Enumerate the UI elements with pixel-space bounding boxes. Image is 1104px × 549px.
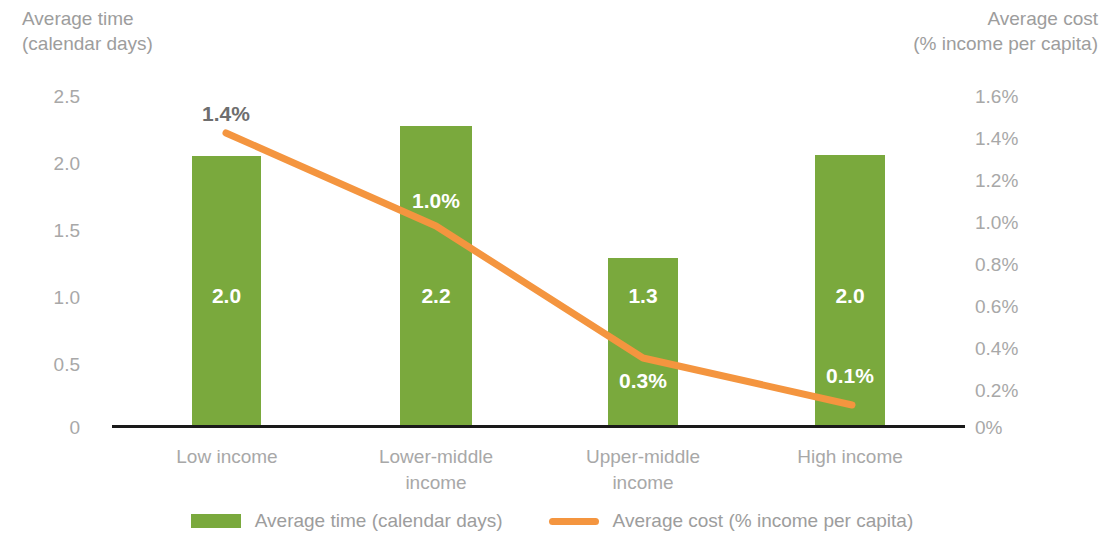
bar-value-label-high-income: 2.0: [815, 285, 885, 306]
line-value-label-upper-middle-income: 0.3%: [593, 370, 693, 391]
bar-value-label-upper-middle-income: 1.3: [608, 285, 678, 306]
bar-lower-middle-income[interactable]: [400, 126, 472, 426]
right-tick-0-4: 0.4%: [975, 339, 1055, 358]
left-tick-2-5: 2.5: [10, 87, 80, 106]
legend-line-swatch-icon: [549, 518, 599, 525]
right-tick-0-6: 0.6%: [975, 297, 1055, 316]
right-tick-1-4: 1.4%: [975, 129, 1055, 148]
left-tick-0-5: 0.5: [10, 355, 80, 374]
average-cost-line[interactable]: [226, 133, 852, 405]
line-value-label-lower-middle-income: 1.0%: [386, 190, 486, 211]
right-tick-0-8: 0.8%: [975, 255, 1055, 274]
left-tick-1-5: 1.5: [10, 221, 80, 240]
left-tick-2-0: 2.0: [10, 154, 80, 173]
category-label-high-income: High income: [764, 444, 936, 470]
category-label-upper-middle-income: Upper-middle income: [557, 444, 729, 496]
category-label-lower-middle-income: Lower-middle income: [350, 444, 522, 496]
right-tick-1-2: 1.2%: [975, 171, 1055, 190]
legend-item-average-time[interactable]: Average time (calendar days): [191, 510, 503, 532]
legend-label-average-time: Average time (calendar days): [255, 510, 503, 532]
category-label-low-income: Low income: [141, 444, 313, 470]
left-tick-0: 0: [10, 418, 80, 437]
legend-item-average-cost[interactable]: Average cost (% income per capita): [549, 510, 914, 532]
legend-label-average-cost: Average cost (% income per capita): [613, 510, 914, 532]
right-axis-title: Average cost (% income per capita): [913, 6, 1098, 56]
right-tick-1-6: 1.6%: [975, 87, 1055, 106]
legend-bar-swatch-icon: [191, 514, 241, 528]
right-tick-1-0: 1.0%: [975, 213, 1055, 232]
left-axis-title: Average time (calendar days): [22, 6, 153, 56]
chart-figure: Average time (calendar days) Average cos…: [0, 0, 1104, 549]
bar-value-label-low-income: 2.0: [192, 285, 261, 306]
chart-legend: Average time (calendar days) Average cos…: [0, 510, 1104, 532]
right-tick-0-2: 0.2%: [975, 381, 1055, 400]
line-value-label-high-income: 0.1%: [800, 365, 900, 386]
line-value-label-low-income: 1.4%: [176, 103, 276, 124]
left-tick-1-0: 1.0: [10, 288, 80, 307]
right-tick-0: 0%: [975, 418, 1055, 437]
bar-value-label-lower-middle-income: 2.2: [400, 285, 472, 306]
